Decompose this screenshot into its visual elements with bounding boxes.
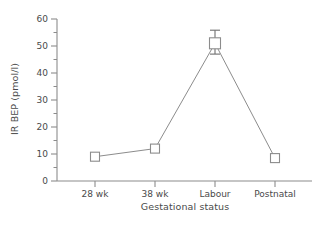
chart-plot-area: 60 50 40 30 20 10 0 28 wk 38 wk Labour P… (0, 0, 321, 226)
y-tick-label: 0 (42, 176, 48, 186)
y-tick-label: 40 (37, 68, 49, 78)
data-point-marker-0 (91, 152, 100, 161)
x-tick-label-0: 28 wk (82, 189, 110, 199)
y-tick-label: 50 (37, 41, 49, 51)
y-tick-label: 10 (37, 149, 49, 159)
data-point-marker-3 (271, 154, 280, 163)
data-point-marker-1 (151, 144, 160, 153)
y-tick-label: 20 (37, 122, 49, 132)
y-tick-label: 30 (37, 95, 49, 105)
y-tick-label: 60 (37, 14, 49, 24)
x-tick-label-3: Postnatal (254, 189, 296, 199)
x-axis-ticks (95, 181, 275, 187)
x-tick-labels: 28 wk 38 wk Labour Postnatal (82, 189, 296, 199)
x-tick-label-2: Labour (199, 189, 230, 199)
x-tick-label-1: 38 wk (142, 189, 170, 199)
data-series-line (95, 43, 275, 158)
data-point-marker-2 (210, 38, 221, 49)
figure-canvas: IR BEP (pmol/l) Gestational status 60 50 (0, 0, 321, 226)
y-axis-ticks (51, 19, 57, 181)
y-tick-labels: 60 50 40 30 20 10 0 (37, 14, 49, 186)
